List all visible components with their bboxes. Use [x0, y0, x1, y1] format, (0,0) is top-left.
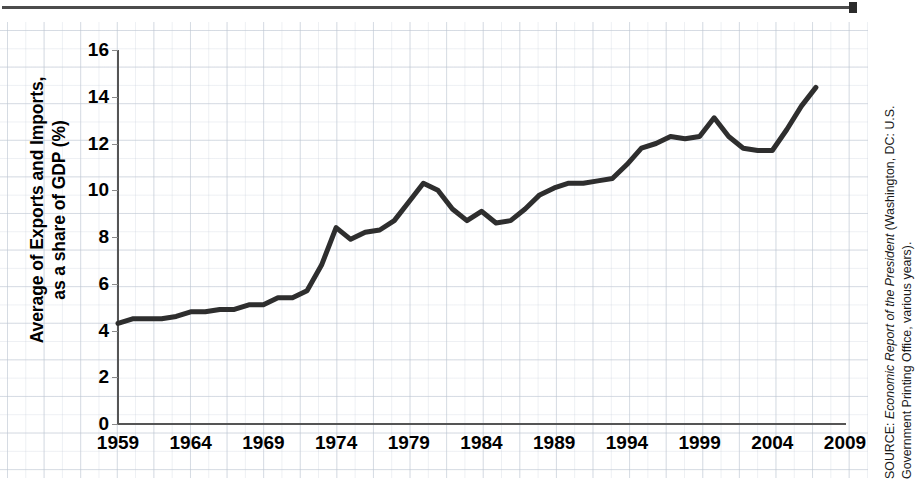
y-axis-title: Average of Exports and Imports, as a sha…	[26, 10, 70, 410]
y-tick-label-4: 4	[98, 320, 109, 342]
x-tick-label-1984: 1984	[460, 432, 502, 454]
y-tick-label-12: 12	[88, 133, 109, 155]
y-tick-label-10: 10	[88, 179, 109, 201]
x-tick-label-1969: 1969	[242, 432, 284, 454]
y-tick-label-14: 14	[88, 86, 109, 108]
source-prefix: SOURCE:	[883, 419, 897, 479]
x-tick-label-1959: 1959	[97, 432, 139, 454]
y-tick-label-16: 16	[88, 39, 109, 61]
x-tick-label-1974: 1974	[315, 432, 357, 454]
y-axis-title-line-1: Average of Exports and Imports,	[26, 10, 48, 410]
y-tick-label-6: 6	[98, 273, 109, 295]
x-tick-label-1989: 1989	[533, 432, 575, 454]
top-rule-divider	[2, 6, 855, 9]
x-tick-label-1999: 1999	[678, 432, 720, 454]
x-tick-label-1979: 1979	[388, 432, 430, 454]
trade-share-line-series	[118, 50, 845, 424]
plot-area: 0246810121416 19591964196919741979198419…	[118, 50, 845, 424]
y-axis-title-line-2: as a share of GDP (%)	[48, 10, 70, 410]
source-title-italic: Economic Report of the President	[883, 234, 897, 419]
top-rule-end-cap	[849, 2, 857, 13]
y-tick-label-2: 2	[98, 366, 109, 388]
x-tick-label-1994: 1994	[606, 432, 648, 454]
x-tick-label-2009: 2009	[824, 432, 866, 454]
y-tick-mark-0	[112, 424, 118, 425]
source-note: SOURCE: Economic Report of the President…	[882, 49, 916, 479]
y-tick-label-8: 8	[98, 226, 109, 248]
x-tick-label-2004: 2004	[751, 432, 793, 454]
x-tick-label-1964: 1964	[170, 432, 212, 454]
